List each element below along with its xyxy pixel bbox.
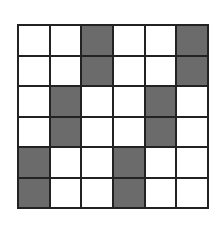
grid-cell-empty: [50, 56, 82, 87]
grid-cell-empty: [113, 56, 145, 87]
grid-cell-filled: [176, 25, 208, 56]
grid-cell-empty: [113, 117, 145, 148]
grid-cell-filled: [145, 117, 177, 148]
grid-cell-filled: [50, 86, 82, 117]
grid-cell-empty: [145, 56, 177, 87]
grid-cell-empty: [81, 178, 113, 209]
grid-cell-empty: [18, 86, 50, 117]
grid-cell-empty: [18, 56, 50, 87]
grid-cell-empty: [81, 86, 113, 117]
grid-cell-filled: [18, 147, 50, 178]
grid-cell-empty: [176, 117, 208, 148]
pattern-grid: [17, 24, 209, 209]
grid-cell-filled: [113, 178, 145, 209]
grid-cell-filled: [176, 56, 208, 87]
grid-cell-filled: [113, 147, 145, 178]
grid-cell-empty: [176, 86, 208, 117]
grid-cell-empty: [145, 178, 177, 209]
grid-cell-filled: [81, 56, 113, 87]
grid-cell-filled: [145, 86, 177, 117]
grid-cell-empty: [50, 25, 82, 56]
grid-cell-empty: [176, 178, 208, 209]
grid-cell-empty: [50, 178, 82, 209]
grid-cell-empty: [18, 117, 50, 148]
grid-cell-filled: [50, 117, 82, 148]
grid-cell-empty: [50, 147, 82, 178]
grid-cell-empty: [113, 86, 145, 117]
grid-cell-empty: [145, 147, 177, 178]
grid-cell-empty: [18, 25, 50, 56]
grid-cell-empty: [81, 117, 113, 148]
grid-cell-empty: [176, 147, 208, 178]
grid-cell-empty: [113, 25, 145, 56]
grid-cell-empty: [145, 25, 177, 56]
grid-cell-filled: [81, 25, 113, 56]
grid-cell-filled: [18, 178, 50, 209]
grid-cell-empty: [81, 147, 113, 178]
